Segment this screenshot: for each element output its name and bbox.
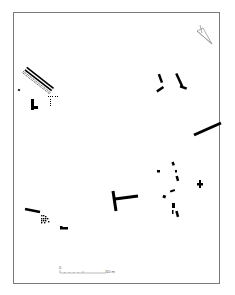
wall-t-shape [31,99,38,110]
wall-l-shape-right [175,73,187,90]
wall-sw [25,209,40,212]
scattered-blocks [157,162,203,218]
wall-l-shape-left [156,74,164,93]
north-arrow-icon [197,25,212,44]
stone-row-feature [23,67,54,94]
post-hole [18,89,21,92]
stone-cluster-sw [41,215,49,223]
scale-end-label: 10 m [106,270,115,274]
scale-start-label: 0 [59,266,61,270]
site-plan [0,0,235,295]
wall-diagonal [194,123,221,135]
wall-t-central [113,191,138,211]
dotted-t-feature [48,96,58,106]
scale-bar [60,270,106,273]
wall-fragment-sw [60,226,68,230]
